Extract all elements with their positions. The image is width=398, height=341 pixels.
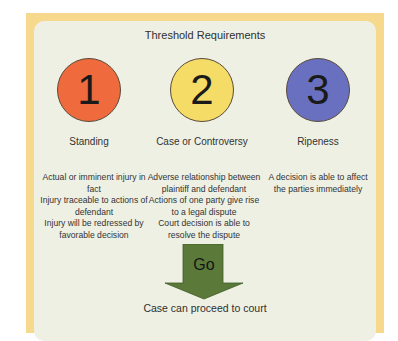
requirement-3-circle: 3 — [286, 58, 350, 122]
detail-item: Adverse relationship between plaintiff a… — [145, 172, 263, 195]
outcome-text: Case can proceed to court — [34, 302, 376, 314]
detail-item: Injury will be redressed by favorable de… — [38, 218, 150, 241]
requirement-2-circle: 2 — [170, 58, 234, 122]
requirement-2-details: Adverse relationship between plaintiff a… — [145, 172, 263, 242]
detail-item: Actual or imminent injury in fact — [38, 172, 150, 195]
requirement-1-details: Actual or imminent injury in fact Injury… — [38, 172, 150, 242]
requirement-1-label: Standing — [29, 136, 149, 147]
detail-item: Actions of one party give rise to a lega… — [145, 195, 263, 218]
detail-item: A decision is able to affect the parties… — [262, 172, 374, 195]
requirement-3-details: A decision is able to affect the parties… — [262, 172, 374, 195]
requirement-1-number: 1 — [77, 66, 100, 114]
go-label: Go — [183, 256, 225, 274]
requirement-2-label: Case or Controversy — [142, 136, 262, 147]
diagram-title: Threshold Requirements — [34, 29, 376, 41]
requirement-3-label: Ripeness — [258, 136, 378, 147]
requirement-3-number: 3 — [306, 66, 329, 114]
requirement-1-circle: 1 — [57, 58, 121, 122]
detail-item: Court decision is able to resolve the di… — [145, 218, 263, 241]
detail-item: Injury traceable to actions of defendant — [38, 195, 150, 218]
requirement-2-number: 2 — [190, 66, 213, 114]
